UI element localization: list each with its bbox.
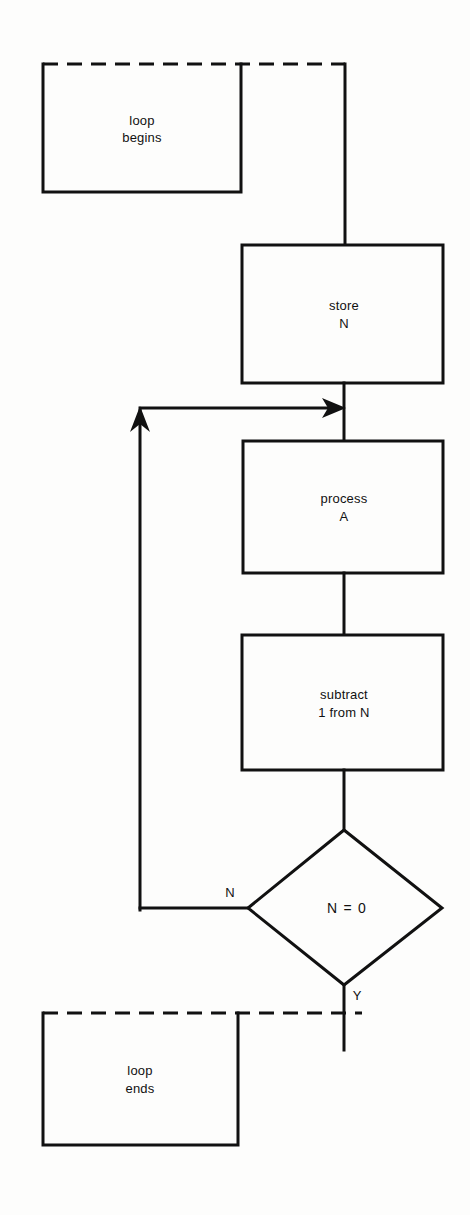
loop-ends-outline: [43, 1013, 238, 1145]
node-process-a: process A: [243, 441, 443, 573]
node-subtract: subtract 1 from N: [242, 635, 443, 770]
subtract-box: [242, 635, 443, 770]
branch-yes-label: Y: [353, 988, 362, 1003]
node-decision: N = 0: [248, 830, 442, 985]
loop-ends-label-line1: loop: [127, 1063, 152, 1078]
subtract-label-line1: subtract: [320, 687, 368, 702]
store-n-label-line2: N: [339, 316, 349, 331]
process-a-box: [243, 441, 443, 573]
node-store-n: store N: [242, 245, 443, 383]
node-loop-ends: loop ends: [43, 1013, 362, 1145]
node-loop-begins: loop begins: [43, 64, 345, 192]
loop-begins-label-line1: loop: [129, 113, 154, 128]
flowchart-canvas: loop begins store N process A: [0, 0, 470, 1215]
loop-begins-label-line2: begins: [122, 130, 162, 145]
decision-label: N = 0: [327, 900, 367, 916]
loop-ends-label-line2: ends: [126, 1081, 155, 1096]
process-a-label-line1: process: [321, 491, 368, 506]
branch-no-label: N: [225, 885, 234, 900]
process-a-label-line2: A: [340, 509, 349, 524]
subtract-label-line2: 1 from N: [318, 705, 369, 720]
store-n-label-line1: store: [329, 298, 359, 313]
loop-begins-outline: [43, 64, 241, 192]
flowchart-page: loop begins store N process A: [0, 0, 470, 1215]
store-n-box: [242, 245, 443, 383]
